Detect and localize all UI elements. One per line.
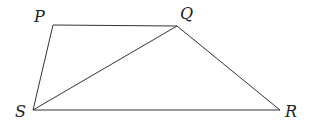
diagram-svg: P Q R S bbox=[0, 0, 316, 129]
vertex-labels: P Q R S bbox=[15, 4, 297, 121]
edges bbox=[33, 25, 280, 110]
vertex-label-s: S bbox=[15, 102, 26, 121]
vertex-label-p: P bbox=[33, 7, 45, 26]
edge-qr bbox=[177, 26, 280, 110]
geometry-diagram: P Q R S bbox=[0, 0, 316, 129]
diagonal-sq bbox=[33, 26, 177, 110]
edge-pq bbox=[53, 25, 177, 26]
edge-sp bbox=[33, 25, 53, 110]
vertex-label-r: R bbox=[284, 102, 297, 121]
vertex-label-q: Q bbox=[180, 4, 193, 23]
